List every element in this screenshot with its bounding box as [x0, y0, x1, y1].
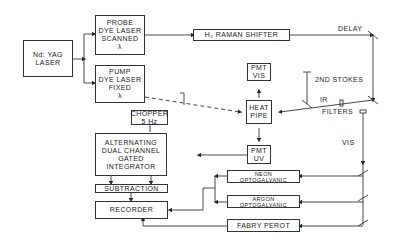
block-text: FIXED: [109, 84, 132, 92]
block-text: ALTERNATING: [105, 139, 157, 147]
pump-dye-laser-block: PUMP DYE LASER FIXED λ: [95, 65, 145, 103]
integrator-block: ALTERNATING DUAL CHANNEL GATED INTEGRATO…: [95, 133, 167, 176]
block-text: RECORDER: [110, 206, 153, 214]
block-text: DYE LASER: [99, 76, 142, 84]
block-text: λ: [118, 92, 122, 100]
experimental-setup-diagram: Nd: YAG LASER PROBE DYE LASER SCANNED λ …: [0, 0, 395, 240]
block-text: CHOPPER: [131, 110, 168, 118]
block-text: PMT: [251, 64, 267, 72]
pmt-uv-block: PMT UV: [247, 145, 271, 164]
block-text: PIPE: [250, 112, 268, 120]
block-text: λ: [118, 43, 122, 51]
raman-shifter-block: H₂ RAMAN SHIFTER: [193, 29, 290, 41]
chopper-block: CHOPPER 5 Hz: [131, 110, 168, 125]
block-text: GATED: [118, 155, 144, 163]
block-text: SCANNED: [101, 35, 138, 43]
recorder-block: RECORDER: [95, 201, 168, 219]
fabry-perot-block: FABRY PEROT: [227, 219, 300, 232]
block-text: LASER: [36, 59, 61, 67]
block-text: PMT: [251, 147, 267, 155]
block-text: OPTOGALVANIC: [240, 202, 287, 208]
block-text: H₂ RAMAN SHIFTER: [205, 31, 278, 39]
block-text: PROBE: [107, 19, 134, 27]
block-text: 5 Hz: [142, 118, 158, 126]
block-text: SUBTRACTION: [104, 185, 159, 193]
argon-optogalvanic-block: ARGON OPTOGALVANIC: [227, 195, 300, 208]
block-text: DUAL CHANNEL: [102, 147, 161, 155]
filters-label: FILTERS: [322, 108, 353, 115]
ir-label: IR: [320, 96, 328, 103]
probe-dye-laser-block: PROBE DYE LASER SCANNED λ: [95, 15, 145, 55]
heat-pipe-block: HEAT PIPE: [246, 100, 272, 124]
neon-optogalvanic-block: NEON OPTOGALVANIC: [227, 170, 300, 183]
block-text: PUMP: [109, 68, 131, 76]
block-text: OPTOGALVANIC: [240, 177, 287, 183]
pmt-vis-block: PMT VIS: [247, 63, 271, 81]
block-text: Nd: YAG: [33, 51, 63, 59]
nd-yag-laser-block: Nd: YAG LASER: [23, 40, 73, 77]
stokes-label: 2ND STOKES: [315, 76, 363, 83]
block-text: INTEGRATOR: [106, 163, 155, 171]
block-text: DYE LASER: [99, 27, 142, 35]
subtraction-block: SUBTRACTION: [95, 184, 168, 193]
block-text: UV: [254, 155, 265, 163]
delay-label: DELAY: [338, 25, 362, 32]
block-text: FABRY PEROT: [237, 222, 290, 230]
block-text: VIS: [253, 72, 265, 80]
block-text: HEAT: [249, 104, 269, 112]
vis-label: VIS: [342, 139, 354, 146]
